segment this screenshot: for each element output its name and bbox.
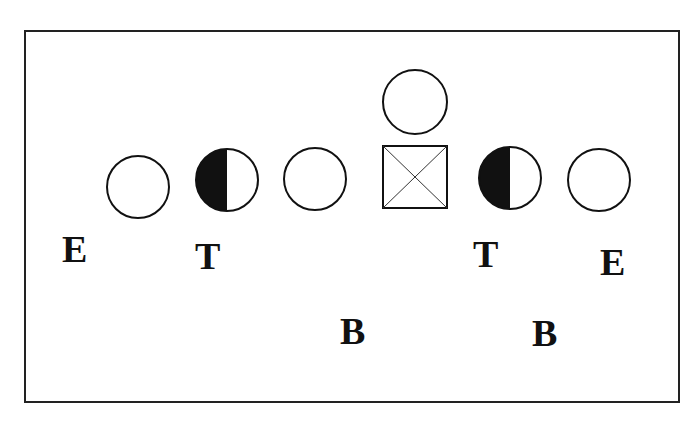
quarterback-player — [383, 70, 447, 134]
center-player — [383, 146, 447, 208]
right-end-label: E — [600, 243, 625, 281]
left-tackle-player — [196, 149, 258, 211]
left-back-label: B — [340, 312, 365, 350]
right-tackle-player — [479, 147, 541, 209]
left-end-player — [107, 156, 169, 218]
right-tackle-label: T — [473, 235, 498, 273]
left-end-label: E — [62, 230, 87, 268]
formation-svg — [0, 0, 695, 427]
right-back-label: B — [532, 314, 557, 352]
left-tackle-label: T — [195, 237, 220, 275]
right-end-player — [568, 149, 630, 211]
left-guard-player — [284, 148, 346, 210]
